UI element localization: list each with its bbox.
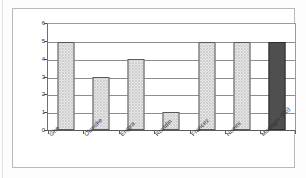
x-axis-labels: Ghe Olanske Engjra Rovtdin Francez Noemi…: [48, 133, 306, 178]
chart-frame: 6 5 4 3 2 1 0: [12, 8, 295, 168]
bars-layer: [48, 24, 295, 130]
plot-wrapper: 6 5 4 3 2 1 0: [35, 23, 298, 131]
bar-francez[interactable]: [198, 42, 215, 130]
page-edge-line: [2, 0, 3, 178]
bar-slot-2: [119, 24, 154, 130]
bar-slot-4: [189, 24, 224, 130]
bar-slot-3: [154, 24, 189, 130]
bar-engjra[interactable]: [128, 59, 145, 130]
bar-noemi[interactable]: [234, 42, 251, 130]
chart-screenshot: 6 5 4 3 2 1 0: [0, 0, 306, 178]
bar-slot-5: [224, 24, 259, 130]
bar-slot-1: [83, 24, 118, 130]
bar-slot-0: [48, 24, 83, 130]
bar-ghe[interactable]: [57, 42, 74, 130]
